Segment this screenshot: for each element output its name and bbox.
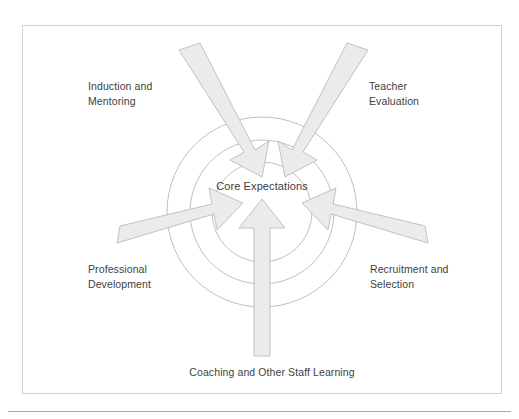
node-label-coaching-and-other-staff-learning: Coaching and Other Staff Learning [142, 365, 402, 380]
node-label-induction-and-mentoring: Induction and Mentoring [88, 79, 198, 109]
arrow-teacher-evaluation [278, 43, 368, 177]
node-label-teacher-evaluation: Teacher Evaluation [369, 79, 489, 109]
center-label-core-expectations: Core Expectations [182, 179, 342, 193]
figure-page: Induction and Mentoring Teacher Evaluati… [0, 0, 519, 419]
arrow-coaching-and-other-staff-learning [239, 199, 285, 356]
node-label-professional-development: Professional Development [88, 262, 203, 292]
arrow-recruitment-and-selection [302, 188, 428, 243]
node-label-recruitment-and-selection: Recruitment and Selection [370, 262, 495, 292]
arrow-professional-development [117, 188, 243, 243]
arrow-induction-and-mentoring [179, 43, 269, 177]
page-divider-rule [8, 411, 511, 412]
convergence-diagram [0, 0, 519, 419]
